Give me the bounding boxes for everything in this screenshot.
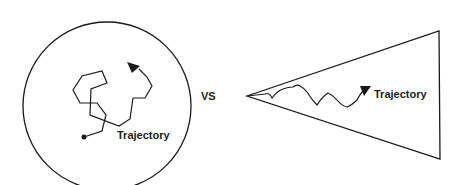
cone-trajectory-label: Trajectory	[374, 88, 427, 100]
confinement-circle	[23, 22, 191, 185]
cone-panel: Trajectory	[247, 31, 440, 159]
trajectory-end-arrow-icon	[127, 62, 140, 73]
diagram-canvas: Trajectory VS Trajectory	[0, 0, 463, 185]
cone-trajectory-arrow-icon	[360, 86, 371, 96]
directed-trajectory-path	[247, 85, 363, 107]
circle-panel: Trajectory	[23, 22, 191, 185]
circle-trajectory-label: Trajectory	[117, 129, 170, 141]
confined-trajectory-path	[73, 69, 152, 137]
trajectory-start-dot-icon	[82, 135, 87, 140]
vs-label: VS	[201, 90, 216, 102]
